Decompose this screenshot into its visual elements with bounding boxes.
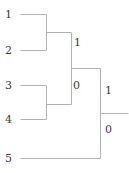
dendrogram-figure: 1 2 3 4 5 1 0 1 0 [0,0,129,173]
root-label-lower: 0 [105,124,112,135]
leaf-label-4: 4 [5,114,12,125]
node-label-c: 0 [73,80,80,91]
leaf-label-1: 1 [5,9,12,20]
root-label-upper: 1 [105,85,112,96]
leaf-label-2: 2 [5,45,12,56]
leaf-label-5: 5 [5,153,12,164]
leaf-label-3: 3 [5,80,12,91]
node-label-a: 1 [74,37,81,48]
